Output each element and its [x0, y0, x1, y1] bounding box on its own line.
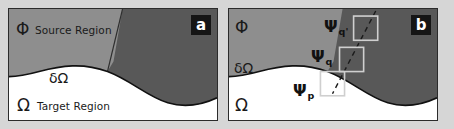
panel-badge-b: b [411, 15, 431, 35]
panel-a-regions [9, 9, 217, 120]
panel-b-regions [229, 9, 437, 120]
figure-container: Φ Source Region δΩ Ω Target Region a Φ δ… [0, 0, 454, 129]
panel-b: Φ δΩ Ω Ψq' Ψq Ψp b [228, 8, 438, 121]
panel-badge-a: a [191, 15, 211, 35]
panel-a: Φ Source Region δΩ Ω Target Region a [8, 8, 218, 121]
